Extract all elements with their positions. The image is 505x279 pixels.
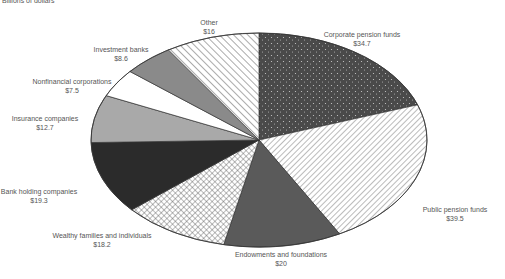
slice-label-name: Corporate pension funds — [324, 30, 401, 39]
slice-label-value: $18.2 — [52, 240, 151, 249]
slice-label-name: Endowments and foundations — [235, 250, 327, 259]
slice-label-name: Public pension funds — [423, 205, 488, 214]
slice-label: Other$16 — [200, 18, 218, 36]
slice-label: Wealthy families and individuals$18.2 — [52, 231, 151, 249]
slice-label-value: $12.7 — [12, 123, 79, 132]
slice-label-name: Bank holding companies — [1, 187, 77, 196]
slice-label-name: Investment banks — [94, 45, 149, 54]
slice-label-value: $20 — [235, 259, 327, 268]
slice-label-value: $39.5 — [423, 214, 488, 223]
slice-label-name: Nonfinancial corporations — [33, 77, 112, 86]
pie-slices — [91, 33, 427, 247]
slice-label: Nonfinancial corporations$7.5 — [33, 77, 112, 95]
slice-label: Endowments and foundations$20 — [235, 250, 327, 268]
slice-label-value: $34.7 — [324, 39, 401, 48]
slice-label: Bank holding companies$19.3 — [1, 187, 77, 205]
slice-label-value: $8.6 — [94, 54, 149, 63]
slice-label: Insurance companies$12.7 — [12, 114, 79, 132]
slice-label-value: $19.3 — [1, 196, 77, 205]
slice-label-name: Wealthy families and individuals — [52, 231, 151, 240]
slice-label-value: $16 — [200, 27, 218, 36]
slice-label: Investment banks$8.6 — [94, 45, 149, 63]
slice-label-value: $7.5 — [33, 86, 112, 95]
slice-label: Public pension funds$39.5 — [423, 205, 488, 223]
slice-label-name: Other — [200, 18, 218, 27]
slice-label: Corporate pension funds$34.7 — [324, 30, 401, 48]
slice-label-name: Insurance companies — [12, 114, 79, 123]
